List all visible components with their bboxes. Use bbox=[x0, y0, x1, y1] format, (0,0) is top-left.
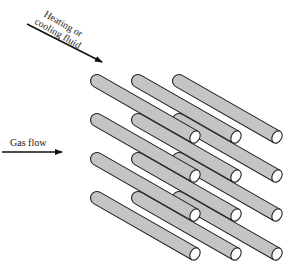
tube-bank bbox=[91, 75, 285, 262]
gas-flow-label: Gas flow bbox=[10, 137, 46, 148]
